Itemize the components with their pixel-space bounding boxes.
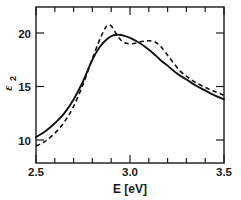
y-tick-label-0: 10 (18, 135, 31, 147)
y-tick-label-2: 20 (18, 28, 31, 40)
x-tick-label-2: 3.5 (216, 166, 233, 178)
chart-figure: 2.5 3.0 3.5 10 15 20 E [eV] ε 2 (0, 0, 241, 200)
y-axis-title: ε 2 (0, 76, 18, 91)
y-tick-label-1: 15 (18, 81, 31, 93)
y-axis-title-epsilon: ε (0, 85, 15, 91)
x-tick-label-0: 2.5 (28, 166, 45, 178)
y-axis-title-subscript: 2 (8, 76, 18, 81)
data-curve-solid (36, 35, 224, 137)
x-axis-minor-ticks (55, 7, 205, 163)
x-axis-title: E [eV] (113, 182, 147, 196)
x-tick-label-1: 3.0 (122, 166, 138, 178)
plot-svg: 2.5 3.0 3.5 10 15 20 E [eV] ε 2 (0, 0, 241, 200)
